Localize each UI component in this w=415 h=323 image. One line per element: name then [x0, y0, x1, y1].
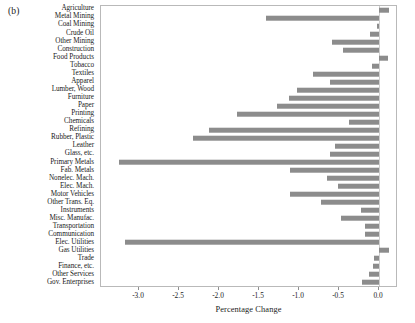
x-axis-tick-label: -0.5 — [332, 291, 344, 300]
bar-row — [101, 246, 396, 254]
x-axis-title: Percentage Change — [100, 305, 397, 314]
x-axis-tick-label: -2.0 — [212, 291, 224, 300]
x-axis-tick-label: 0.0 — [373, 291, 382, 300]
bar — [237, 112, 379, 117]
bar — [365, 224, 379, 229]
bar — [209, 128, 379, 133]
bar-row — [101, 214, 396, 222]
bar-row — [101, 14, 396, 22]
bar — [362, 280, 379, 285]
bar — [379, 56, 388, 61]
x-axis-tick — [218, 287, 219, 290]
bar-row — [101, 254, 396, 262]
bar — [341, 216, 379, 221]
figure-panel-b: (b) AgricultureMetal MiningCoal MiningCr… — [0, 0, 415, 323]
bar — [379, 8, 389, 13]
x-axis-tick — [338, 287, 339, 290]
bar — [321, 200, 379, 205]
bar-row — [101, 150, 396, 158]
x-axis-tick-label: -1.0 — [292, 291, 304, 300]
bar — [369, 272, 379, 277]
bar — [193, 136, 379, 141]
bar — [372, 64, 379, 69]
bar — [327, 176, 379, 181]
bar-row — [101, 174, 396, 182]
bar — [343, 48, 379, 53]
category-label: Glass, etc. — [18, 150, 96, 158]
bar — [349, 120, 379, 125]
bar — [277, 104, 379, 109]
bar-row — [101, 190, 396, 198]
bar — [379, 248, 389, 253]
bar-row — [101, 198, 396, 206]
bar — [332, 40, 379, 45]
bar-row — [101, 262, 396, 270]
x-axis-tick — [298, 287, 299, 290]
bar-row — [101, 166, 396, 174]
x-axis-tick — [258, 287, 259, 290]
bar — [313, 72, 379, 77]
bar-row — [101, 222, 396, 230]
x-axis-tick — [178, 287, 179, 290]
x-axis-tick-label: -1.5 — [252, 291, 264, 300]
bar-row — [101, 134, 396, 142]
bar-row — [101, 22, 396, 30]
bar-series — [101, 6, 396, 286]
bar-row — [101, 270, 396, 278]
bar — [330, 152, 379, 157]
bar — [290, 192, 379, 197]
bar-row — [101, 54, 396, 62]
x-axis-tick — [378, 287, 379, 290]
category-label: Coal Mining — [18, 21, 96, 29]
category-axis-labels: AgricultureMetal MiningCoal MiningCrude … — [18, 5, 96, 287]
bar — [377, 24, 379, 29]
bar-row — [101, 126, 396, 134]
category-label: Gov. Enterprises — [18, 279, 96, 287]
bar — [330, 80, 379, 85]
bar — [338, 184, 379, 189]
bar-row — [101, 78, 396, 86]
bar-row — [101, 230, 396, 238]
bar-row — [101, 110, 396, 118]
x-axis-tick-label: -3.0 — [132, 291, 144, 300]
bar-row — [101, 94, 396, 102]
bar-row — [101, 30, 396, 38]
bar — [297, 88, 379, 93]
bar — [365, 232, 379, 237]
bar-row — [101, 238, 396, 246]
bar-row — [101, 206, 396, 214]
bar-row — [101, 70, 396, 78]
bar-row — [101, 278, 396, 286]
bar — [335, 144, 379, 149]
bar — [290, 168, 379, 173]
bar-row — [101, 118, 396, 126]
bar — [125, 240, 379, 245]
bar-row — [101, 182, 396, 190]
bar-row — [101, 142, 396, 150]
x-axis-tick-label: -2.5 — [172, 291, 184, 300]
bar — [374, 256, 379, 261]
bar-row — [101, 6, 396, 14]
bar-row — [101, 86, 396, 94]
x-axis-tick — [138, 287, 139, 290]
bar — [289, 96, 379, 101]
bar-row — [101, 62, 396, 70]
plot-area — [100, 5, 397, 287]
bar-row — [101, 38, 396, 46]
bar-row — [101, 158, 396, 166]
bar — [119, 160, 379, 165]
bar-row — [101, 46, 396, 54]
bar-row — [101, 102, 396, 110]
bar — [266, 16, 379, 21]
bar — [370, 32, 379, 37]
bar — [373, 264, 379, 269]
bar — [361, 208, 379, 213]
